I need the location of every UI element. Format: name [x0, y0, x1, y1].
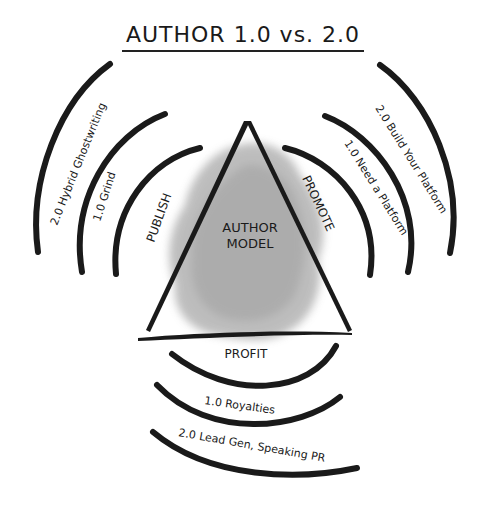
profit-label: PROFIT [225, 347, 268, 361]
author-model-diagram: AUTHOR MODEL 2.0 Hybrid Ghostwriting 1.0… [0, 0, 486, 519]
center-label-line2: MODEL [227, 236, 275, 251]
center-label-line1: AUTHOR [222, 220, 277, 235]
publish-label: PUBLISH [144, 191, 175, 244]
bottom-arc-1-0-label: 1.0 Royalties [204, 394, 276, 417]
